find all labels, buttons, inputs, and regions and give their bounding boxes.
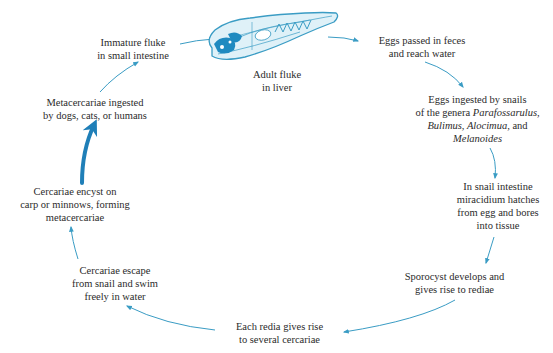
stage-text-line: Sporocyst develops and — [392, 270, 517, 283]
genus-name: Bulimus, Alocimua, — [427, 120, 509, 131]
stage-miracidium-hatches: In snail intestine miracidium hatches fr… — [448, 180, 548, 232]
arrow-encyst-to-metacercariae — [82, 125, 94, 183]
stage-text-line: to several cercariae — [222, 333, 337, 346]
arrow-snails-to-miracidium — [490, 148, 495, 178]
arrow-sporocyst-to-redia — [344, 300, 455, 332]
arrow-eggs-to-snails — [425, 62, 463, 87]
stage-sporocyst: Sporocyst develops and gives rise to red… — [392, 270, 517, 296]
adult-fluke-caption-line2: in liver — [237, 81, 317, 94]
stage-text-line: from snail and swim — [65, 277, 165, 290]
stage-text-line: freely in water — [65, 290, 165, 303]
arrow-metacercariae-to-immature — [100, 62, 138, 92]
arrow-adult-to-eggs — [328, 37, 358, 41]
stage-text-line: Immature fluke — [88, 36, 178, 49]
stage-text-line: and reach water — [357, 47, 487, 60]
arrow-redia-to-cercariae-escape — [127, 306, 215, 330]
stage-text-line: miracidium hatches — [448, 193, 548, 206]
stage-text-line: In snail intestine — [448, 180, 548, 193]
stage-cercariae-encyst: Cercariae encyst on carp or minnows, for… — [15, 185, 135, 224]
stage-metacercariae-ingested: Metacercariae ingested by dogs, cats, or… — [35, 96, 155, 122]
stage-text-line: Melanoides — [405, 132, 550, 145]
stage-text-line: Eggs ingested by snails — [405, 93, 550, 106]
stage-text-line: Bulimus, Alocimua, and — [405, 119, 550, 132]
stage-text-line: gives rise to rediae — [392, 283, 517, 296]
text-fragment: and — [510, 120, 528, 131]
stage-text-line: Metacercariae ingested — [35, 96, 155, 109]
stage-redia: Each redia gives rise to several cercari… — [222, 320, 337, 346]
stage-text-line: into tissue — [448, 219, 548, 232]
stage-eggs-ingested-snails: Eggs ingested by snails of the genera Pa… — [405, 93, 550, 145]
stage-text-line: Cercariae encyst on — [15, 185, 135, 198]
text-fragment: of the genera — [415, 107, 472, 118]
stage-text-line: Eggs passed in feces — [357, 34, 487, 47]
arrow-escape-to-encyst — [71, 227, 78, 259]
stage-cercariae-escape: Cercariae escape from snail and swim fre… — [65, 264, 165, 303]
stage-text-line: Each redia gives rise — [222, 320, 337, 333]
adult-fluke-illustration — [209, 13, 337, 60]
stage-eggs-passed: Eggs passed in feces and reach water — [357, 34, 487, 60]
stage-immature-fluke: Immature fluke in small intestine — [88, 36, 178, 62]
life-cycle-diagram: Adult fluke in liver Eggs passed in fece… — [0, 0, 553, 353]
stage-text-line: from egg and bores — [448, 206, 548, 219]
stage-text-line: carp or minnows, forming — [15, 198, 135, 211]
genus-name: Parafossarulus, — [473, 107, 540, 118]
adult-fluke-caption-line1: Adult fluke — [237, 68, 317, 81]
adult-fluke-caption: Adult fluke in liver — [237, 68, 317, 94]
stage-text-line: metacercariae — [15, 211, 135, 224]
stage-text-line: in small intestine — [88, 49, 178, 62]
arrow-miracidium-to-sporocyst — [486, 237, 494, 263]
stage-text-line: Cercariae escape — [65, 264, 165, 277]
stage-text-line: by dogs, cats, or humans — [35, 109, 155, 122]
stage-text-line: of the genera Parafossarulus, — [405, 106, 550, 119]
genus-name: Melanoides — [453, 133, 502, 144]
